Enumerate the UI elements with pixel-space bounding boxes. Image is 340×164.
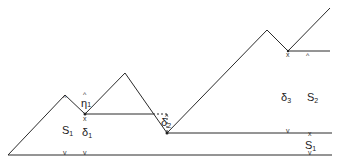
marker-down: v [286,127,290,134]
marker-down: v [63,149,67,156]
wave-profile-diagram: ^ ^ x v v ^ x ^ v x v S1 δ1 η1 δ2 δ3 S2 … [0,0,340,164]
label-s1-left: S1 [62,124,73,137]
marker-cross: x [83,115,87,122]
label-s1-right: S1 [305,139,316,152]
label-eta1: η1 [81,97,91,109]
marker-cross: x [286,51,290,58]
label-delta1: δ1 [82,126,92,139]
marker-down: v [83,149,87,156]
marker-up: ^ [63,94,67,101]
label-delta2: δ2 [161,116,171,129]
label-delta3: δ3 [281,91,291,104]
label-s2: S2 [307,91,318,104]
marker-cross: x [308,130,312,137]
valley-point-2 [166,132,169,135]
marker-up: ^ [306,52,310,59]
